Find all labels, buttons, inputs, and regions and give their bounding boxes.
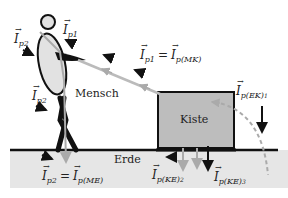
label-ipek1: →Ip(EK)1 bbox=[236, 82, 268, 100]
force-arrow-p2-top bbox=[23, 50, 33, 55]
force-arrow-p2-mid bbox=[36, 106, 46, 110]
force-arrow-rope-2 bbox=[135, 70, 143, 73]
person-label: Mensch bbox=[75, 88, 119, 99]
ground-label: Erde bbox=[114, 154, 141, 165]
label-ip1-top: →Ip1 bbox=[63, 21, 78, 39]
label-ip2-top: →Ip2 bbox=[14, 30, 29, 48]
label-ip1-eq-ipmk: →Ip1=→Ip(MK) bbox=[140, 46, 201, 64]
label-ipke3: →Ip(KE)3 bbox=[214, 168, 246, 186]
label-ip2-mid: →Ip2 bbox=[32, 87, 47, 105]
person-head bbox=[41, 15, 55, 29]
force-arrow-rope-1 bbox=[104, 55, 112, 58]
label-ip2-eq-ipme: →Ip2=→Ip(ME) bbox=[42, 167, 103, 185]
force-diagram: Mensch Kiste Erde →Ip2 →Ip1 →Ip1=→Ip(MK)… bbox=[0, 0, 288, 198]
label-ipke2: →Ip(KE)2 bbox=[152, 166, 184, 184]
box-label: Kiste bbox=[180, 114, 208, 125]
force-arrow-p1 bbox=[66, 40, 74, 44]
